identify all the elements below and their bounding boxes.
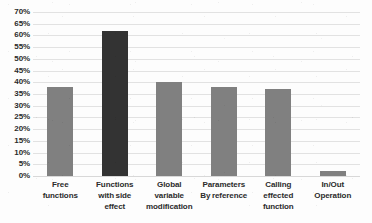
y-axis-tick-label: 60% — [0, 31, 30, 39]
y-axis-tick-label: 70% — [0, 8, 30, 16]
x-axis-label-line: Functions — [88, 179, 143, 190]
y-axis-tick-label: 10% — [0, 149, 30, 157]
x-axis-label-line: By reference — [197, 190, 252, 201]
axis-baseline — [33, 176, 360, 177]
x-axis-label-line: modification — [142, 201, 197, 212]
y-axis-tick-label: 5% — [0, 160, 30, 168]
x-axis-label-line: Global — [142, 179, 197, 190]
x-axis-category-label: ParametersBy reference — [197, 179, 252, 201]
x-axis-category-label: Functionswith sideeffect — [88, 179, 143, 212]
bar — [102, 31, 128, 176]
y-axis-tick-label: 15% — [0, 137, 30, 145]
y-axis-tick-label: 30% — [0, 102, 30, 110]
x-axis-label-line: functions — [33, 190, 88, 201]
x-axis-label-line: Parameters — [197, 179, 252, 190]
y-axis-tick-label: 0% — [0, 172, 30, 180]
y-axis-tick-label: 25% — [0, 113, 30, 121]
bar — [211, 87, 237, 176]
x-axis-label-line: with side — [88, 190, 143, 201]
y-axis-tick-label: 65% — [0, 20, 30, 28]
x-axis-label-line: In/Out — [306, 179, 361, 190]
y-axis-tick-label: 50% — [0, 55, 30, 63]
bar-chart: 70%65%60%55%50%45%40%35%30%25%20%15%10%5… — [0, 0, 372, 223]
y-axis: 70%65%60%55%50%45%40%35%30%25%20%15%10%5… — [0, 12, 30, 176]
x-axis-label-line: function — [251, 201, 306, 212]
bars-group — [33, 12, 360, 176]
x-axis-label-line: Calling — [251, 179, 306, 190]
x-axis-label-line: effect — [88, 201, 143, 212]
y-axis-tick-label: 20% — [0, 125, 30, 133]
plot-area — [33, 12, 360, 176]
x-axis: FreefunctionsFunctionswith sideeffectGlo… — [33, 179, 360, 223]
y-axis-tick-label: 35% — [0, 90, 30, 98]
bar — [320, 171, 346, 176]
bar — [47, 87, 73, 176]
x-axis-label-line: Operation — [306, 190, 361, 201]
y-axis-tick-label: 55% — [0, 43, 30, 51]
x-axis-category-label: Freefunctions — [33, 179, 88, 201]
bar — [156, 82, 182, 176]
x-axis-category-label: In/OutOperation — [306, 179, 361, 201]
x-axis-category-label: Globalvariablemodification — [142, 179, 197, 212]
x-axis-label-line: Free — [33, 179, 88, 190]
x-axis-category-label: Callingeffectedfunction — [251, 179, 306, 212]
y-axis-tick-label: 40% — [0, 78, 30, 86]
x-axis-label-line: effected — [251, 190, 306, 201]
y-axis-tick-label: 45% — [0, 67, 30, 75]
bar — [265, 89, 291, 176]
x-axis-label-line: variable — [142, 190, 197, 201]
